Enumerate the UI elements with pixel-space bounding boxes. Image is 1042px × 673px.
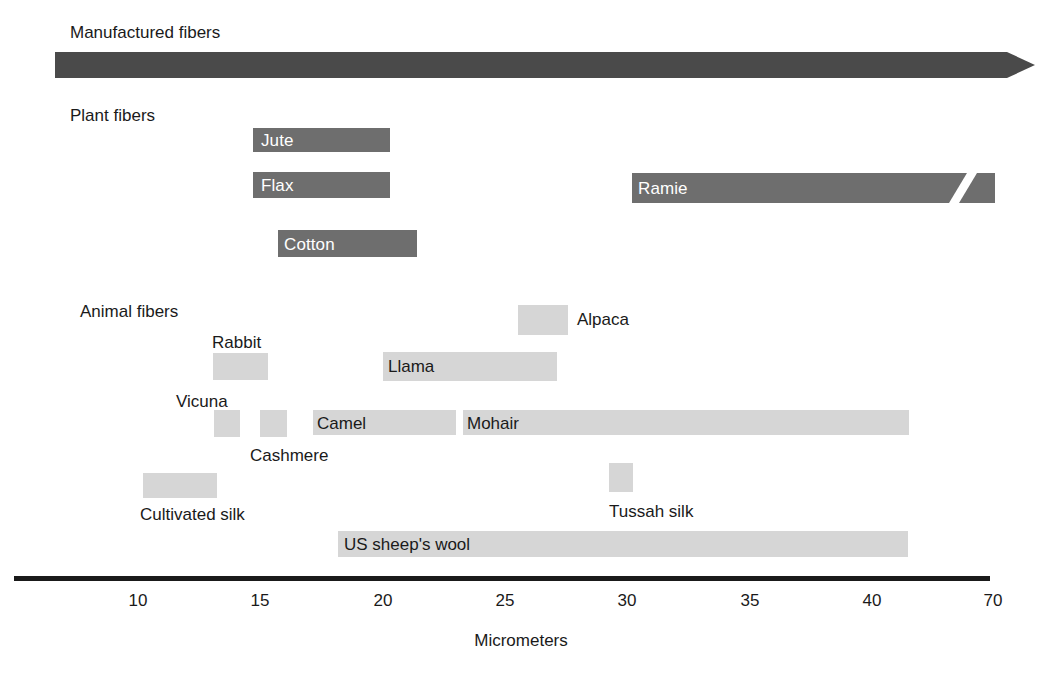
bar-rabbit	[213, 353, 268, 380]
bar-label-ramie: Ramie	[638, 180, 688, 197]
bar-label-cultivated-silk: Cultivated silk	[140, 506, 245, 523]
bar-label-jute: Jute	[261, 132, 294, 149]
fiber-diameter-chart: Manufactured fibers Plant fibers Animal …	[0, 0, 1042, 673]
bar-label-llama: Llama	[388, 358, 434, 375]
x-axis-tick-15: 15	[251, 592, 270, 609]
bar-label-rabbit: Rabbit	[212, 334, 261, 351]
bar-label-cotton: Cotton	[284, 236, 335, 253]
bar-tussah-silk	[609, 463, 633, 492]
x-axis-tick-25: 25	[496, 592, 515, 609]
x-axis-line	[14, 576, 990, 581]
bar-label-us-sheeps-wool: US sheep's wool	[344, 536, 470, 553]
bar-label-vicuna: Vicuna	[176, 393, 228, 410]
manufactured-fibers-arrow-shape	[55, 52, 1035, 78]
bar-vicuna	[214, 410, 240, 437]
x-axis-tick-30: 30	[618, 592, 637, 609]
x-axis-title: Micrometers	[0, 632, 1042, 649]
bar-label-camel: Camel	[317, 415, 366, 432]
bar-manufactured-fibers	[55, 52, 1035, 78]
bar-label-cashmere: Cashmere	[250, 447, 328, 464]
bar-cultivated-silk	[143, 473, 217, 498]
bar-mohair	[463, 410, 909, 435]
bar-alpaca	[518, 305, 568, 335]
x-axis-tick-10: 10	[129, 592, 148, 609]
bar-label-tussah-silk: Tussah silk	[609, 503, 693, 520]
group-label-plant-fibers: Plant fibers	[70, 107, 155, 124]
bar-cashmere	[260, 410, 287, 437]
group-label-manufactured-fibers: Manufactured fibers	[70, 24, 220, 41]
bar-label-alpaca: Alpaca	[577, 311, 629, 328]
x-axis-tick-20: 20	[374, 592, 393, 609]
bar-label-flax: Flax	[261, 177, 294, 194]
bar-label-mohair: Mohair	[467, 415, 519, 432]
x-axis-tick-40: 40	[863, 592, 882, 609]
x-axis-tick-35: 35	[741, 592, 760, 609]
x-axis-tick-70: 70	[984, 592, 1003, 609]
group-label-animal-fibers: Animal fibers	[80, 303, 178, 320]
